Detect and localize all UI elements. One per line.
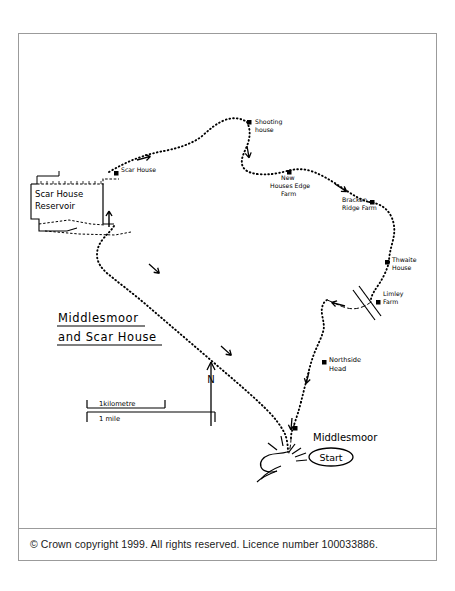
scale-bar-mile: 1 mile: [87, 412, 215, 423]
label-scar-house-reservoir: Scar House Reservoir: [35, 189, 83, 211]
label-scar-house-line1: Scar House: [121, 166, 156, 173]
label-bracken-ridge-farm-line2: Ridge Farm: [342, 204, 377, 212]
map-title-line1: Middlesmoor: [58, 311, 139, 325]
label-new-houses-edge-farm-line2: Houses Edge: [270, 182, 310, 190]
middlesmoor-village-roads: [257, 436, 307, 482]
label-new-houses-edge-farm-line3: Farm: [281, 190, 296, 197]
label-northside-head-line2: Head: [329, 365, 346, 373]
label-bracken-ridge-farm: Bracken Ridge Farm: [342, 196, 377, 212]
label-shooting-house-line2: house: [255, 126, 274, 133]
route-path-northwest: [109, 118, 247, 172]
label-thwaite-house-line2: House: [392, 264, 412, 271]
label-limley-farm-line2: Farm: [383, 298, 398, 305]
map-canvas: Scar House Reservoir Scar House Shooting…: [19, 34, 436, 528]
marker-thwaite-house: [385, 260, 390, 265]
label-bracken-ridge-farm-line1: Bracken: [342, 196, 367, 203]
label-new-houses-edge-farm-line1: New: [281, 174, 295, 181]
label-scar-house-reservoir-line1: Scar House: [35, 189, 83, 199]
route-path-limley-northside: [301, 300, 371, 402]
copyright-notice: © Crown copyright 1999. All rights reser…: [30, 538, 378, 550]
label-middlesmoor: Middlesmoor: [313, 432, 378, 443]
label-thwaite-house: Thwaite House: [391, 256, 417, 271]
label-limley-farm-line1: Limley: [383, 290, 404, 298]
marker-limley-farm: [376, 300, 381, 305]
label-limley-farm: Limley Farm: [383, 290, 404, 305]
route-direction-arrows: [106, 145, 348, 430]
label-shooting-house: Shooting house: [255, 118, 282, 133]
label-thwaite-house-line1: Thwaite: [391, 256, 417, 263]
marker-lower-route: [293, 426, 298, 431]
walk-route-map: Scar House Reservoir Scar House Shooting…: [19, 34, 436, 528]
start-badge-label: Start: [319, 452, 342, 463]
marker-northside-head: [322, 360, 327, 365]
page-frame: Scar House Reservoir Scar House Shooting…: [18, 33, 437, 561]
north-arrow: N: [207, 362, 215, 426]
north-arrow-label: N: [207, 374, 214, 385]
label-new-houses-edge-farm: New Houses Edge Farm: [270, 174, 310, 197]
scale-bar-kilometre: 1kilometre: [87, 400, 165, 408]
map-title: Middlesmoor and Scar House: [57, 311, 162, 345]
label-scar-house-reservoir-line2: Reservoir: [35, 201, 75, 211]
label-scar-house: Scar House: [121, 166, 156, 173]
marker-shooting-house: [247, 120, 252, 125]
start-marker: Middlesmoor Start: [309, 432, 378, 466]
map-page: Scar House Reservoir Scar House Shooting…: [0, 0, 455, 591]
scale-bar-kilometre-label: 1kilometre: [99, 400, 136, 408]
label-shooting-house-line1: Shooting: [255, 118, 282, 126]
footer-divider: [19, 528, 436, 529]
label-northside-head-line1: Northside: [329, 356, 361, 364]
route-path-bracken-ridge: [369, 202, 394, 262]
scale-bar-mile-label: 1 mile: [99, 415, 120, 423]
label-northside-head: Northside Head: [329, 356, 361, 373]
marker-scar-house: [114, 171, 119, 176]
map-title-line2: and Scar House: [58, 330, 157, 344]
